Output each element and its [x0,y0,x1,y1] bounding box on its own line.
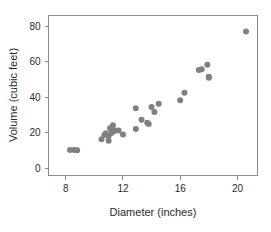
scatter-plot-figure: 8121620 020406080 Diameter (inches) Volu… [0,0,271,232]
chart-canvas: 8121620 020406080 Diameter (inches) Volu… [0,0,271,232]
x-tick-label: 8 [63,183,69,194]
x-tick-label: 20 [232,183,244,194]
y-tick-label: 0 [35,163,41,174]
data-point [243,29,249,35]
data-point [146,121,152,127]
x-axis-title: Diameter (inches) [110,206,197,218]
x-tick-label: 16 [175,183,187,194]
y-axis-ticks [45,26,49,168]
x-axis-tick-labels: 8121620 [63,183,244,194]
data-point [204,62,210,68]
y-axis-title: Volume (cubic feet) [7,48,19,142]
x-tick-label: 12 [117,183,129,194]
data-point [199,66,205,72]
data-point [139,117,145,123]
data-point [133,126,139,132]
y-tick-label: 40 [29,92,41,103]
y-tick-label: 60 [29,56,41,67]
y-tick-label: 80 [29,21,41,32]
data-point [156,101,162,107]
y-axis-tick-labels: 020406080 [29,21,41,174]
y-tick-label: 20 [29,127,41,138]
x-axis-ticks [66,176,238,180]
data-point [177,97,183,103]
data-point [133,105,139,111]
data-point [74,147,80,153]
data-point [181,90,187,96]
data-points-layer [67,29,249,154]
data-point [151,109,157,115]
data-point [206,75,212,81]
data-point [120,131,126,137]
